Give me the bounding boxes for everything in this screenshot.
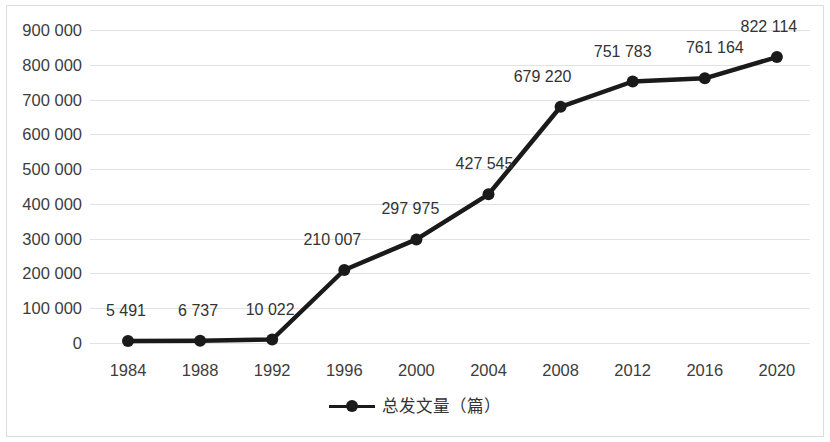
data-point-label: 210 007	[303, 232, 361, 248]
x-tick-label: 2008	[542, 362, 579, 379]
x-tick-label: 2004	[470, 362, 507, 379]
series-line	[128, 57, 777, 341]
data-point[interactable]	[194, 335, 206, 347]
data-point-label: 679 220	[514, 69, 572, 85]
x-tick-label: 1984	[110, 362, 147, 379]
x-tick-label: 1988	[182, 362, 219, 379]
data-point-label: 751 783	[594, 44, 652, 60]
data-point-label: 427 545	[456, 156, 514, 172]
x-tick-label: 1992	[254, 362, 291, 379]
x-tick-label: 2016	[686, 362, 723, 379]
data-point[interactable]	[483, 188, 495, 200]
x-tick-label: 1996	[326, 362, 363, 379]
x-axis: 1984198819921996200020042008201220162020	[0, 362, 830, 386]
data-point[interactable]	[555, 101, 567, 113]
x-tick-label: 2012	[614, 362, 651, 379]
data-point-label: 6 737	[178, 303, 218, 319]
line-with-dot-marker-icon	[329, 398, 375, 414]
x-tick-label: 2020	[759, 362, 796, 379]
legend-item-label: 总发文量（篇）	[382, 398, 501, 415]
data-point-label: 761 164	[686, 40, 744, 56]
data-point-label: 297 975	[381, 201, 439, 217]
data-point-label: 10 022	[246, 302, 295, 318]
line-chart: 0100 000200 000300 000400 000500 000600 …	[0, 0, 830, 442]
data-point-label: 822 114	[741, 19, 798, 35]
data-point[interactable]	[410, 233, 422, 245]
data-point[interactable]	[338, 264, 350, 276]
data-point[interactable]	[771, 51, 783, 63]
series-markers	[122, 51, 783, 347]
data-point[interactable]	[699, 72, 711, 84]
legend-item-total-publications[interactable]: 总发文量（篇）	[329, 398, 501, 415]
chart-legend: 总发文量（篇）	[0, 398, 830, 415]
data-point[interactable]	[627, 76, 639, 88]
data-point-label: 5 491	[106, 303, 146, 319]
x-tick-label: 2000	[398, 362, 435, 379]
data-point[interactable]	[122, 335, 134, 347]
data-point[interactable]	[266, 334, 278, 346]
